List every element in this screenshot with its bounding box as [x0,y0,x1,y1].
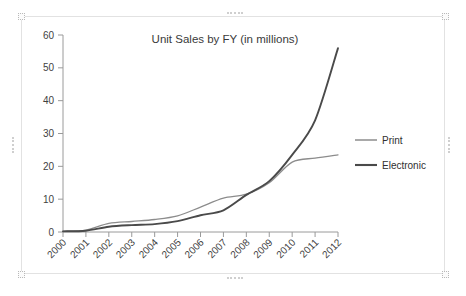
y-tick-label-50: 50 [43,62,55,73]
y-tick-label-60: 60 [43,30,55,41]
embedded-chart-object[interactable]: Unit Sales by FY (in millions) 010203040… [0,0,466,296]
resize-handle-bottom-right[interactable] [442,271,449,278]
legend-label-electronic[interactable]: Electronic [382,160,426,171]
y-axis: 0102030405060 [43,30,63,238]
x-tick-label-2005: 2005 [159,236,183,260]
resize-handle-bottom-center[interactable] [227,277,243,281]
x-tick-label-2009: 2009 [251,236,275,260]
series-line-electronic[interactable] [63,48,338,231]
resize-handle-middle-right[interactable] [448,137,452,153]
x-tick-label-2008: 2008 [228,236,252,260]
x-tick-label-2010: 2010 [274,236,298,260]
y-tick-label-0: 0 [48,227,54,238]
y-tick-label-30: 30 [43,128,55,139]
y-tick-label-20: 20 [43,161,55,172]
series-line-print[interactable] [63,155,338,232]
y-tick-label-40: 40 [43,95,55,106]
x-axis: 2000200120022003200420052006200720082009… [45,232,344,260]
chart-surface[interactable]: Unit Sales by FY (in millions) 010203040… [0,0,466,296]
x-tick-label-2000: 2000 [45,236,69,260]
chart-title: Unit Sales by FY (in millions) [152,33,299,45]
x-tick-label-2003: 2003 [114,236,138,260]
x-tick-label-2007: 2007 [205,236,229,260]
x-tick-label-2004: 2004 [137,236,161,260]
resize-handle-bottom-left[interactable] [18,271,25,278]
chart-legend[interactable]: PrintElectronic [355,135,426,171]
resize-handle-top-right[interactable] [442,13,449,20]
resize-handle-top-left[interactable] [18,13,25,20]
x-tick-label-2001: 2001 [68,236,92,260]
resize-handle-middle-left[interactable] [12,137,16,153]
line-chart[interactable]: Unit Sales by FY (in millions) 010203040… [0,0,466,296]
resize-handle-top-center[interactable] [227,12,243,16]
x-tick-label-2011: 2011 [298,236,321,259]
series-group[interactable] [63,48,338,231]
x-tick-label-2012: 2012 [320,236,344,260]
y-tick-label-10: 10 [43,194,55,205]
legend-label-print[interactable]: Print [382,135,403,146]
x-tick-label-2002: 2002 [91,236,115,260]
x-tick-label-2006: 2006 [182,236,206,260]
